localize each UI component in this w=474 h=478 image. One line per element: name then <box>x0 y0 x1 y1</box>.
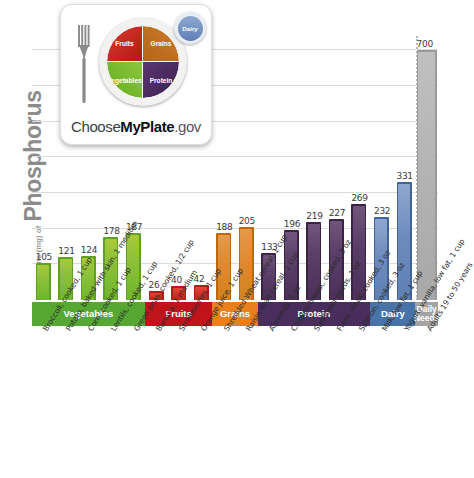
dairy-circle: Dairy <box>174 12 206 44</box>
choosemyplate-logo-card: Fruits Grains Vegetables Protein Dairy C… <box>60 4 212 145</box>
bar-value-label: 121 <box>58 246 74 256</box>
bar-fill <box>37 265 49 300</box>
x-axis-labels: Broccoli, cooked, 1 cupPotato, baked wit… <box>32 328 438 478</box>
bar-value-label: 269 <box>351 193 367 203</box>
plate-quadrants: Fruits Grains Vegetables Protein <box>107 26 179 98</box>
bar-slot[interactable]: 105 <box>32 36 55 300</box>
bar-fill <box>418 52 435 300</box>
bar-value-label: 219 <box>306 211 322 221</box>
bar-value-label: 227 <box>329 208 345 218</box>
bar-value-label: 700 <box>417 39 433 49</box>
bar-value-label: 232 <box>374 206 390 216</box>
wordmark-myplate: MyPlate <box>120 118 174 135</box>
wordmark-gov: .gov <box>174 118 201 135</box>
bar-value-label: 196 <box>284 219 300 229</box>
bar-slot[interactable]: 205 <box>235 36 258 300</box>
bar-slot[interactable]: 700 <box>415 36 438 300</box>
bar-value-label: 331 <box>397 171 413 181</box>
dairy-circle-label: Dairy <box>178 16 203 41</box>
bar-value-label: 105 <box>36 252 52 262</box>
bar-value-label: 124 <box>81 245 97 255</box>
bar-slot[interactable]: 219 <box>303 36 326 300</box>
bar[interactable]: 700 <box>417 50 437 300</box>
bar-value-label: 205 <box>239 216 255 226</box>
wordmark-choose: Choose <box>71 118 120 135</box>
bar-slot[interactable]: 331 <box>393 36 416 300</box>
myplate-wordmark: ChooseMyPlate.gov <box>61 118 211 135</box>
bar-value-label: 188 <box>216 222 232 232</box>
fork-icon <box>77 25 91 103</box>
bar[interactable]: 105 <box>36 263 51 300</box>
bar-slot[interactable]: 188 <box>212 36 235 300</box>
bar-value-label: 178 <box>103 226 119 236</box>
bar-slot[interactable]: 269 <box>348 36 371 300</box>
